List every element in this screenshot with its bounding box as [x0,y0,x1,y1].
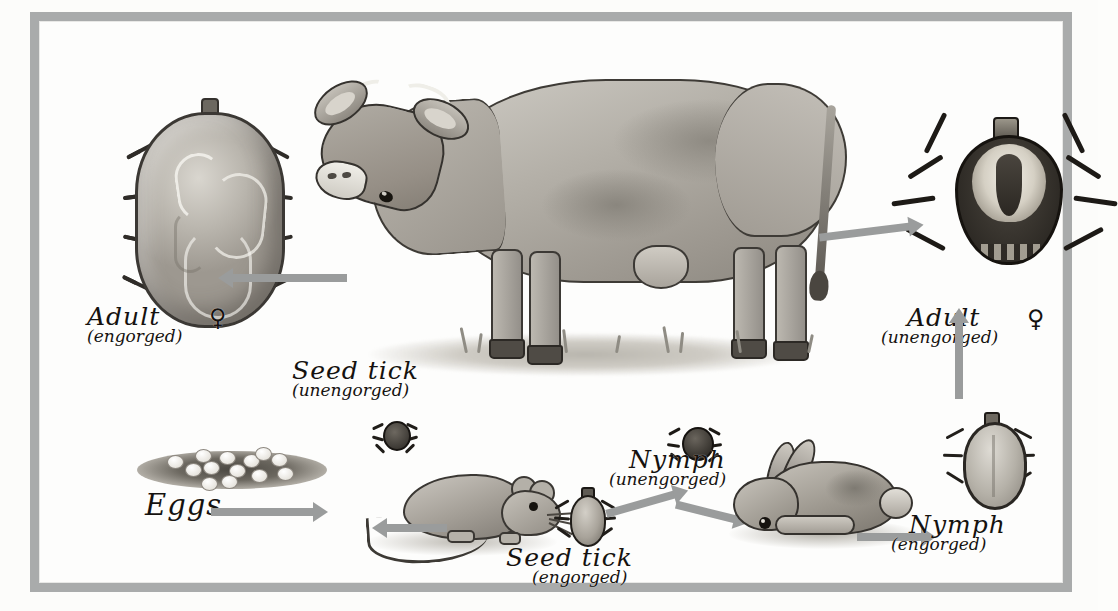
tick-egg [271,453,288,467]
arrow-cow-to-adult-engorged [231,274,347,282]
cow-hind-leg-near [775,245,807,351]
tick-festoons [968,244,1050,260]
tick-leg [924,112,948,154]
tick-leg [1065,154,1102,179]
label-seed-tick-unengorged: Seed tick (unengorged) [292,359,419,399]
tick-leg [668,427,681,436]
tick-leg [554,516,570,520]
tick-leg [557,527,572,538]
cow-hoof [773,341,809,361]
tick-leg [1062,112,1086,154]
tick-leg [554,499,569,510]
tick-leg [372,423,384,431]
cow-front-leg-near [529,251,561,355]
tick-scutum [972,144,1046,222]
female-symbol-adult-unengorged: ♀ [1027,308,1045,331]
cow-eye [378,190,394,204]
mouse-eye [529,502,538,511]
mouse-hind-foot [447,530,475,543]
tick-leg [375,443,386,453]
label-line-2: (unengorged) [292,382,419,398]
rabbit-foot [775,515,855,535]
tick-egg [203,461,220,475]
tick-leg [1073,195,1117,206]
rabbit-eye [759,517,771,529]
cow-hoof [527,345,563,365]
label-adult-unengorged: Adult (unengorged) [881,306,998,346]
tick-egg [255,447,272,461]
tick-egg [219,451,236,465]
cow-illustration [315,49,875,389]
tick-egg [195,449,212,463]
tick-leg [907,154,944,179]
adult-unengorged-tick [911,99,1101,279]
label-line-2: (engorged) [532,569,633,585]
tick-body [383,421,411,451]
label-adult-engorged: Adult (engorged) [87,305,182,345]
label-line-2: (engorged) [87,328,182,344]
figure-frame: Adult (engorged) ♀ Adult (unengorged) [30,12,1072,592]
tick-egg [167,455,184,469]
cow-hoof [489,339,525,359]
tick-egg [185,463,202,477]
cow-udder [633,245,689,289]
tick-body [963,422,1027,510]
tick-leg [946,471,965,484]
cow-nostril [342,172,352,179]
label-nymph-unengorged: Nymph (unengorged) [609,448,726,488]
arrow-seed-tick-to-mouse [385,524,447,532]
adult-engorged-female-tick [121,96,296,326]
seed-tick-unengorged [372,411,418,455]
female-symbol-adult-engorged: ♀ [209,307,227,330]
tick-body [570,495,606,547]
tick-body [955,135,1063,265]
label-seed-tick-engorged: Seed tick (engorged) [506,546,633,586]
tick-leg [945,427,964,439]
nymph-engorged-tick [939,406,1039,516]
tick-leg [1063,226,1104,251]
label-line-2: (unengorged) [609,471,726,487]
label-line-2: (unengorged) [881,329,998,345]
tick-egg [277,467,294,481]
cow-front-leg-far [491,249,523,349]
tick-leg [943,454,963,458]
tick-egg [221,475,238,489]
cow-nostril [327,173,337,180]
arrow-nymph-engorged-to-adult [955,321,963,399]
tick-body [135,112,285,328]
tick-body-fold [174,211,206,273]
arrow-eggs-to-mouse [211,508,315,516]
tick-egg [251,469,268,483]
label-nymph-engorged: Nymph (engorged) [891,513,1006,553]
